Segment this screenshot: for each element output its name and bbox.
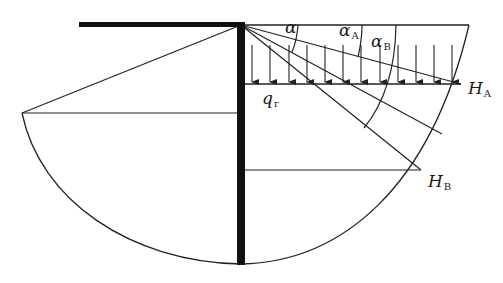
radial-line-mid [241,25,442,134]
label-alpha-A: αA [339,22,359,41]
label-alpha-B: αB [371,33,391,52]
label-H-A: HA [468,80,491,99]
label-alpha: α [285,19,296,36]
failure-arc [22,25,469,264]
wall-top-beam [79,22,245,27]
label-q: qг [262,90,279,109]
earth-pressure-diagram [0,0,503,283]
surcharge-load-arrows [252,45,452,82]
wall-stem [237,22,245,265]
left-inclined-line [22,25,241,113]
label-H-B: HB [428,173,451,192]
